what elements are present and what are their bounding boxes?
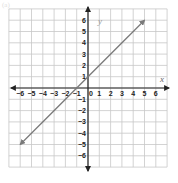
svg-text:4: 4: [131, 90, 135, 97]
y-axis-label: y: [97, 16, 102, 26]
svg-text:−4: −4: [39, 90, 47, 97]
svg-text:−6: −6: [78, 152, 86, 159]
svg-text:−6: −6: [16, 90, 24, 97]
svg-text:2: 2: [82, 62, 86, 69]
svg-text:6: 6: [82, 17, 86, 24]
x-axis-label: x: [159, 74, 164, 84]
figure-label: (a): [2, 1, 10, 9]
svg-text:−2: −2: [78, 107, 86, 114]
svg-text:−5: −5: [78, 141, 86, 148]
svg-text:4: 4: [82, 39, 86, 46]
svg-text:3: 3: [82, 51, 86, 58]
svg-text:5: 5: [82, 28, 86, 35]
svg-text:1: 1: [97, 90, 101, 97]
svg-text:0: 0: [89, 90, 93, 97]
coordinate-plane: −6−5−4−3−2−10123456−6−5−4−3−2−1123456 x …: [0, 0, 178, 183]
svg-text:6: 6: [154, 90, 158, 97]
svg-text:5: 5: [143, 90, 147, 97]
svg-text:−5: −5: [28, 90, 36, 97]
svg-text:−3: −3: [50, 90, 58, 97]
svg-text:−1: −1: [78, 96, 86, 103]
svg-text:2: 2: [109, 90, 113, 97]
svg-text:−4: −4: [78, 130, 86, 137]
svg-text:−3: −3: [78, 118, 86, 125]
svg-text:3: 3: [120, 90, 124, 97]
